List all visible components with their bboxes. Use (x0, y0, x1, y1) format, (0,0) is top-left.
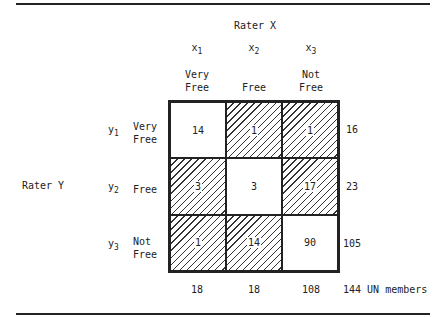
row-header-y2: y2 (108, 181, 119, 192)
row-total-y1: 16 (346, 124, 358, 135)
row-total-y3: 105 (343, 238, 361, 249)
agreement-matrix: 14 1 1 3 3 17 1 14 90 (168, 100, 340, 273)
cell-y1-x1: 14 (170, 102, 226, 158)
column-total-x2: 18 (229, 284, 279, 295)
row-header-y3: y3 (108, 238, 119, 249)
cell-y3-x2: 14 (226, 215, 282, 271)
row-label-y1: VeryFree (133, 120, 157, 146)
cell-y2-x1: 3 (170, 158, 226, 214)
rater-y-label: Rater Y (22, 180, 64, 191)
row-label-y2: Free (133, 184, 157, 195)
column-header-x3: x3 (286, 42, 336, 53)
column-header-x1: x1 (172, 42, 222, 53)
rater-x-label: Rater X (220, 20, 290, 31)
column-label-x1: VeryFree (172, 68, 222, 94)
column-total-x1: 18 (172, 284, 222, 295)
cell-y3-x1: 1 (170, 215, 226, 271)
row-total-y2: 23 (346, 181, 358, 192)
top-rule (16, 3, 430, 5)
column-total-x3: 108 (286, 284, 336, 295)
row-header-y1: y1 (108, 124, 119, 135)
row-label-y3: NotFree (133, 235, 157, 261)
cell-y2-x3: 17 (282, 158, 338, 214)
cell-y2-x2: 3 (226, 158, 282, 214)
bottom-rule (16, 313, 430, 315)
column-label-x2: Free (229, 81, 279, 94)
cell-y1-x3: 1 (282, 102, 338, 158)
column-header-x2: x2 (229, 42, 279, 53)
cell-y3-x3: 90 (282, 215, 338, 271)
grand-total: 144 UN members (343, 284, 427, 295)
cell-y1-x2: 1 (226, 102, 282, 158)
column-label-x3: NotFree (286, 68, 336, 94)
